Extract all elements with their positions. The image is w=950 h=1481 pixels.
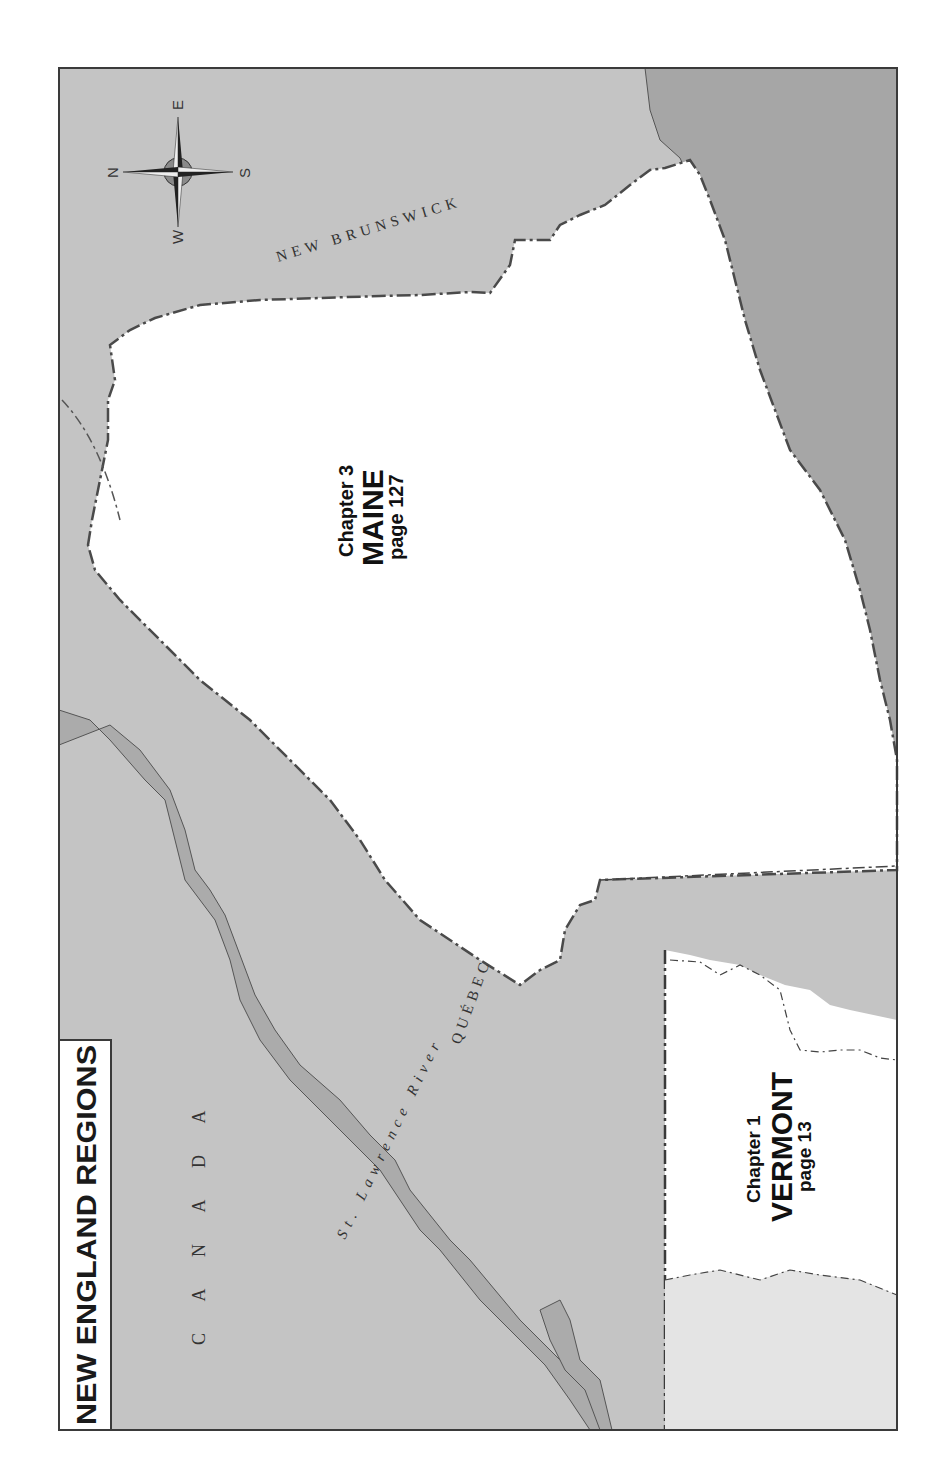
map-title: NEW ENGLAND REGIONS: [72, 1045, 102, 1425]
compass-north: N: [104, 167, 121, 178]
compass-south: S: [236, 168, 253, 178]
vermont-page: page 13: [794, 1121, 815, 1192]
region-adjacent: [665, 1270, 897, 1430]
maine-chapter: Chapter 3: [335, 465, 357, 557]
maine-page: page 127: [385, 474, 407, 560]
compass-west: W: [169, 229, 186, 244]
vermont-chapter: Chapter 1: [743, 1115, 764, 1203]
new-england-map: NEW ENGLAND REGIONS E W N S NEW BRUNSWIC…: [0, 0, 950, 1481]
region-label-maine: Chapter 3 MAINE page 127: [335, 465, 407, 566]
compass-east: E: [169, 100, 186, 110]
title-box: NEW ENGLAND REGIONS: [59, 1040, 111, 1430]
label-canada: C A N A D A: [189, 1096, 209, 1345]
